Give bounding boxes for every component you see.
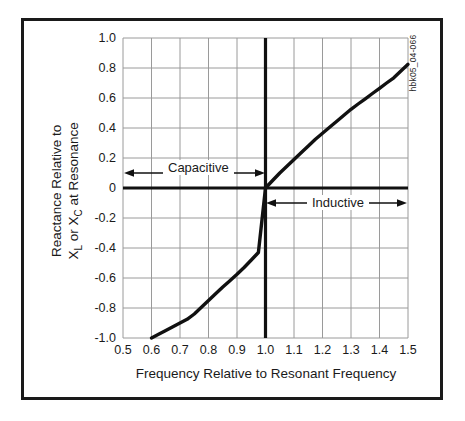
y-axis-title-sub-l: L bbox=[73, 245, 84, 251]
x-tick-label: 1.5 bbox=[390, 343, 426, 357]
y-axis-title-line2: XL or XC at Resonance bbox=[65, 61, 85, 321]
y-tick-label: 1.0 bbox=[72, 31, 116, 45]
y-axis-title-post: at Resonance bbox=[66, 122, 81, 209]
figure-id-caption: hbk05_04-066 bbox=[408, 25, 418, 101]
y-axis-title-mid: or X bbox=[66, 216, 81, 245]
figure-root: 1.0 0.8 0.6 0.4 0.2 0 -0.2 -0.4 -0.6 -0.… bbox=[0, 0, 465, 421]
capacitive-region-label: Capacitive bbox=[163, 160, 234, 175]
y-axis-title: Reactance Relative to XL or XC at Resona… bbox=[48, 61, 86, 321]
y-axis-title-sub-c: C bbox=[73, 209, 84, 216]
y-axis-title-line1: Reactance Relative to bbox=[48, 61, 65, 321]
reactance-curve bbox=[152, 64, 409, 338]
x-axis-title: Frequency Relative to Resonant Frequency bbox=[123, 366, 409, 381]
y-axis-title-x1: X bbox=[66, 251, 81, 260]
inductive-region-label: Inductive bbox=[307, 195, 369, 210]
